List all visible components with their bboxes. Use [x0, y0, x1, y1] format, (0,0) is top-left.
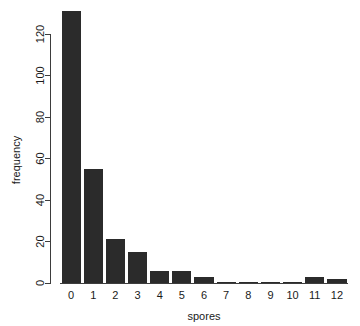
- x-tick-label: 8: [245, 289, 251, 301]
- x-tick-label: 7: [223, 289, 229, 301]
- chart-canvas: 020406080100120 0123456789101112 spores …: [0, 0, 360, 326]
- bar: [84, 169, 103, 283]
- x-tick-label: 0: [68, 289, 74, 301]
- x-tick-label: 10: [286, 289, 298, 301]
- bar: [106, 239, 125, 283]
- y-tick-label: 100: [34, 66, 46, 84]
- y-tick-label: 60: [34, 152, 46, 164]
- y-tick-label: 40: [34, 194, 46, 206]
- x-tick-label: 1: [90, 289, 96, 301]
- bar: [327, 279, 346, 283]
- bar: [217, 282, 236, 283]
- histogram-chart: 020406080100120 0123456789101112 spores …: [0, 0, 360, 326]
- bar: [239, 282, 258, 283]
- x-tick-label: 4: [157, 289, 163, 301]
- bar: [194, 277, 213, 283]
- x-tick-label: 5: [179, 289, 185, 301]
- x-tick-label: 12: [331, 289, 343, 301]
- bar: [172, 271, 191, 283]
- x-tick-label: 2: [112, 289, 118, 301]
- y-tick-label: 120: [34, 25, 46, 43]
- y-tick-label: 20: [34, 235, 46, 247]
- x-tick-label: 6: [201, 289, 207, 301]
- bar: [261, 282, 280, 283]
- x-tick-label: 9: [267, 289, 273, 301]
- x-axis-title: spores: [187, 310, 221, 322]
- y-tick-label: 80: [34, 111, 46, 123]
- x-tick-label: 11: [309, 289, 320, 301]
- bar: [305, 277, 324, 283]
- x-tick-label: 3: [134, 289, 140, 301]
- y-axis-title: frequency: [10, 135, 22, 184]
- bar: [150, 271, 169, 283]
- y-tick-label: 0: [34, 280, 46, 286]
- bar: [62, 11, 81, 283]
- bar: [128, 252, 147, 283]
- bar: [283, 282, 302, 283]
